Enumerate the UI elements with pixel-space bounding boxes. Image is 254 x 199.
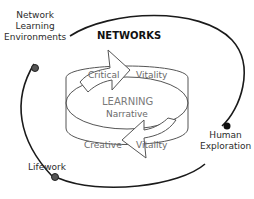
- center-subtitle: Narrative: [106, 109, 148, 120]
- node-label-network-learning-environments: Network Learning Environments: [4, 10, 66, 43]
- outer-arc-bottom: [58, 164, 205, 187]
- node-label-lifework: Lifework: [28, 162, 66, 173]
- top-arrow-left-label: Critical: [88, 70, 119, 81]
- node-dot-human: [224, 123, 231, 130]
- label-line: Exploration: [200, 141, 251, 152]
- top-arrow-right-label: Vitality: [136, 70, 167, 81]
- bottom-arrow-right-label: Vitality: [136, 140, 167, 151]
- bottom-arrow-left-label: Creative: [84, 140, 122, 151]
- label-line: Lifework: [28, 162, 66, 173]
- node-dot-lifework: [52, 174, 59, 181]
- outer-arc-left: [21, 64, 52, 176]
- label-line: Environments: [4, 32, 66, 43]
- label-line: Network: [4, 10, 66, 21]
- label-line: Learning: [4, 21, 66, 32]
- node-label-human-exploration: Human Exploration: [200, 130, 251, 152]
- diagram-title: NETWORKS: [97, 30, 161, 41]
- label-line: Human: [200, 130, 251, 141]
- node-dot-network: [32, 65, 39, 72]
- center-title: LEARNING: [102, 96, 153, 107]
